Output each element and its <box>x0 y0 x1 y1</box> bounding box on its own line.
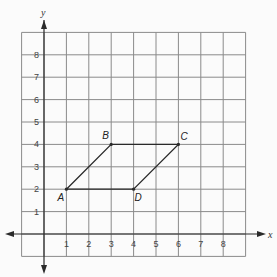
tick-labels: 1234567812345678 <box>34 50 226 249</box>
y-tick-label: 2 <box>34 184 39 194</box>
y-tick-label: 5 <box>34 117 39 127</box>
x-tick-label: 6 <box>176 239 181 249</box>
x-tick-label: 4 <box>131 239 136 249</box>
x-tick-label: 5 <box>153 239 158 249</box>
y-tick-label: 7 <box>34 72 39 82</box>
y-axis-arrow-up-icon <box>41 20 47 29</box>
vertex-label-d: D <box>135 192 142 203</box>
x-tick-label: 1 <box>64 239 69 249</box>
y-axis-label: y <box>40 7 46 18</box>
vertex-point-d <box>132 188 135 191</box>
x-axis-arrow-left-icon <box>5 231 14 237</box>
y-tick-label: 6 <box>34 95 39 105</box>
x-tick-label: 3 <box>109 239 114 249</box>
vertex-point-a <box>65 188 68 191</box>
vertex-label-a: A <box>56 192 64 203</box>
x-tick-label: 2 <box>86 239 91 249</box>
axes <box>5 20 266 274</box>
vertex-point-b <box>110 143 113 146</box>
x-axis-label: x <box>267 229 273 240</box>
y-tick-label: 3 <box>34 162 39 172</box>
coordinate-grid: 1234567812345678 ABCD x y <box>0 0 277 277</box>
vertex-label-b: B <box>102 130 109 141</box>
vertex-label-c: C <box>180 131 188 142</box>
y-tick-label: 8 <box>34 50 39 60</box>
x-axis-arrow-right-icon <box>257 231 266 237</box>
x-tick-label: 8 <box>221 239 226 249</box>
y-tick-label: 4 <box>34 139 39 149</box>
vertex-point-c <box>177 143 180 146</box>
y-axis-arrow-down-icon <box>41 265 47 274</box>
y-tick-label: 1 <box>34 207 39 217</box>
x-tick-label: 7 <box>198 239 203 249</box>
